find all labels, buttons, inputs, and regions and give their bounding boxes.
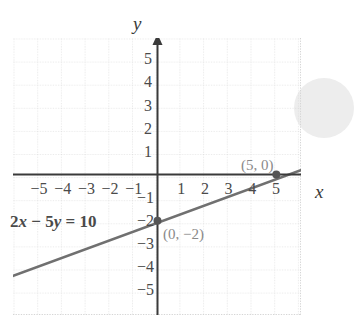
y-tick-3: 3: [144, 98, 152, 114]
y-axis-label: y: [133, 14, 141, 33]
y-tick-2: 2: [144, 121, 152, 137]
equation-variable-x: x: [19, 212, 28, 231]
x-axis-label: x: [315, 182, 323, 201]
x-tick-4: 4: [248, 181, 256, 197]
y-tick-minus-4: −4: [137, 259, 154, 275]
equation-operator-minus: −: [27, 212, 45, 231]
x-tick-minus-2: −2: [102, 181, 119, 197]
x-tick-5: 5: [272, 181, 280, 197]
x-tick-minus-5: −5: [30, 181, 47, 197]
equation-coefficient-2: 5: [45, 212, 54, 231]
y-tick-minus-3: −3: [137, 236, 154, 252]
equation-rhs: = 10: [61, 212, 96, 231]
x-tick-3: 3: [225, 181, 233, 197]
equation-coefficient-1: 2: [10, 212, 19, 231]
y-tick-4: 4: [144, 74, 152, 90]
y-tick-1: 1: [144, 144, 152, 160]
x-tick-1: 1: [177, 181, 185, 197]
coordinate-plane: −5 −4 −3 −2 −1 1 2 3 4 5 5 4 3 2 1 −1 −2…: [13, 38, 301, 315]
point-label-y-intercept: (0, −2): [163, 227, 204, 242]
equation-label: 2x − 5y = 10: [10, 213, 96, 230]
axes: [13, 38, 301, 315]
x-tick-2: 2: [201, 181, 209, 197]
y-tick-5: 5: [144, 51, 152, 67]
edge-blob-decoration: [294, 78, 354, 138]
x-tick-minus-4: −4: [54, 181, 71, 197]
y-tick-minus-1: −1: [137, 190, 154, 206]
y-tick-minus-2: −2: [137, 213, 154, 229]
y-tick-minus-5: −5: [137, 282, 154, 298]
x-tick-minus-3: −3: [78, 181, 95, 197]
point-label-x-intercept: (5, 0): [241, 158, 274, 173]
